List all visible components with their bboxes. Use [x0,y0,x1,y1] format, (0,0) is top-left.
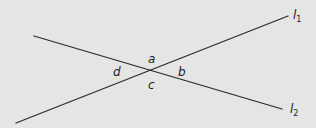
line-l1-label: l1 [293,8,301,24]
line-l1 [16,16,288,123]
intersecting-lines-diagram: l1 l2 a b c d [0,0,316,128]
line-l2 [34,36,282,109]
angle-b-label: b [178,65,186,79]
line-l2-label: l2 [290,102,298,118]
angle-a-label: a [148,52,155,66]
angle-c-label: c [148,78,155,92]
diagram-canvas: l1 l2 a b c d [0,0,316,128]
angle-d-label: d [113,65,121,79]
